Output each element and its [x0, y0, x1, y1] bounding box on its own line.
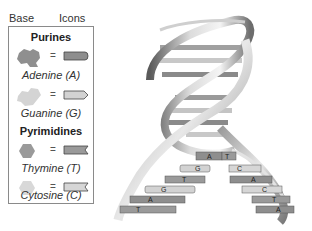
pyrimidines-title: Pyrimidines [9, 125, 93, 137]
svg-text:T: T [182, 176, 187, 183]
thymine-molecule-icon [15, 142, 45, 162]
equals-sign: = [50, 50, 56, 61]
svg-text:T: T [136, 206, 141, 213]
thymine-label: Thymine (T) [9, 162, 93, 174]
adenine-block-icon [63, 51, 89, 61]
svg-text:C: C [262, 186, 267, 193]
svg-text:C: C [237, 165, 242, 172]
svg-text:A: A [207, 153, 212, 160]
thymine-notch-icon [63, 145, 89, 155]
purines-title: Purines [9, 31, 93, 43]
guanine-molecule-icon [15, 87, 45, 107]
svg-text:G: G [195, 165, 200, 172]
legend-header-base: Base [9, 12, 34, 24]
legend-row-thymine: = [9, 142, 93, 158]
svg-text:T: T [272, 196, 277, 203]
svg-text:G: G [161, 186, 166, 193]
guanine-label: Guanine (G) [9, 107, 93, 119]
svg-text:A: A [251, 176, 256, 183]
equals-sign: = [50, 89, 56, 100]
equals-sign: = [50, 144, 56, 155]
adenine-label: Adenine (A) [9, 69, 93, 81]
svg-text:A: A [276, 206, 281, 213]
svg-text:A: A [148, 196, 153, 203]
legend-header-icons: Icons [59, 12, 85, 24]
legend-row-adenine: = [9, 48, 93, 64]
legend-row-guanine: = [9, 87, 93, 103]
adenine-molecule-icon [15, 48, 45, 68]
guanine-arrow-icon [63, 90, 89, 100]
svg-text:T: T [225, 153, 230, 160]
base-icon-legend: Purines = Adenine (A) = Guanine (G) Pyri… [8, 26, 94, 204]
dna-double-helix: A G T G A T T C A C T A [110, 0, 312, 231]
cytosine-label: Cytosine (C) [9, 189, 93, 201]
